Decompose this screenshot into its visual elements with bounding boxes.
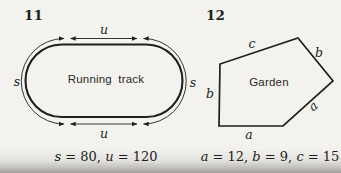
track-right-curve-label: s (190, 75, 196, 90)
running-track-label: Running track (68, 73, 145, 85)
garden-formula: a = 12, b = 9, c = 15 (201, 149, 340, 164)
textbook-figure-panel: 11 u u s s Running track s = 80, u = 120… (0, 0, 341, 173)
formula-var-b: b (252, 149, 260, 164)
garden-label: Garden (249, 76, 289, 88)
formula-var-u: u (105, 149, 113, 164)
garden-side-label-a-bottom: a (245, 127, 252, 142)
track-bottom-side-label: u (100, 126, 108, 141)
exercise-diagrams: 11 u u s s Running track s = 80, u = 120… (0, 0, 341, 173)
garden-side-label-a-right: a (305, 98, 320, 114)
garden-side-label-b-left: b (206, 86, 214, 101)
figure-12-number: 12 (206, 7, 225, 23)
figure-11-number: 11 (24, 7, 43, 23)
formula-var-a: a (201, 149, 209, 164)
track-formula: s = 80, u = 120 (55, 149, 158, 164)
garden-side-label-c: c (248, 36, 255, 51)
garden-side-label-b-top: b (315, 45, 323, 60)
track-top-side-label: u (100, 22, 108, 37)
track-left-curve-label: s (14, 74, 20, 89)
